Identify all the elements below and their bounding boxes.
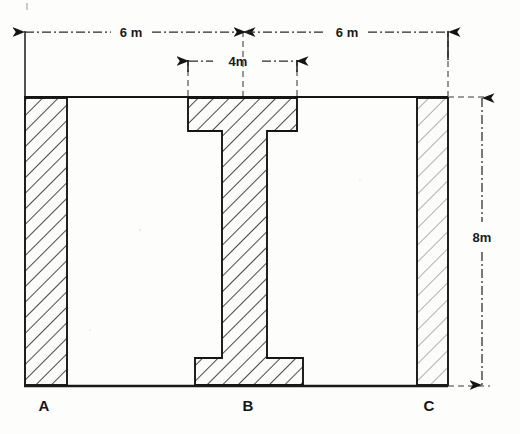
column-b bbox=[188, 98, 303, 385]
node-label-b: B bbox=[243, 397, 254, 414]
node-label-a: A bbox=[39, 397, 50, 414]
dimension-label-span-right: 6 m bbox=[336, 25, 358, 40]
dimension-label-span-left: 6 m bbox=[120, 25, 142, 40]
dimension-label-height: 8m bbox=[473, 230, 492, 245]
node-labels: A B C bbox=[39, 397, 435, 414]
dimension-span-left: 6 m bbox=[25, 25, 243, 40]
column-c bbox=[417, 98, 448, 385]
node-label-c: C bbox=[424, 397, 435, 414]
dimension-label-flange-width: 4m bbox=[229, 54, 248, 69]
dimension-span-right: 6 m bbox=[246, 25, 448, 40]
frame-elevation-diagram: 6 m 6 m 4m 8m bbox=[0, 0, 520, 434]
column-a bbox=[25, 98, 67, 385]
engineering-drawing: 6 m 6 m 4m 8m bbox=[0, 0, 520, 434]
dimension-flange-width: 4m bbox=[189, 54, 296, 69]
dimension-height: 8m bbox=[473, 98, 492, 385]
